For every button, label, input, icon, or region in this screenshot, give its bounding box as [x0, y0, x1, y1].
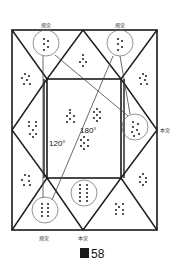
label-bottom-center: 本宮 — [78, 235, 88, 242]
circle-top-right — [107, 30, 133, 56]
palace-diagram: 飛宮 飛宮 本宮 飛宮 本宮 120° 180° 58 — [0, 0, 179, 262]
label-top-right: 飛宮 — [115, 22, 125, 29]
caption-number: 58 — [91, 247, 105, 261]
angle-120-label: 120° — [49, 139, 66, 148]
label-bottom-left: 飛宮 — [39, 235, 49, 242]
caption-glyph-box — [80, 248, 89, 258]
label-top-left: 飛宮 — [41, 22, 51, 29]
angle-180-label: 180° — [80, 126, 97, 135]
circle-bottom-center — [71, 180, 97, 206]
circle-bottom-left — [32, 197, 58, 223]
circle-top-left — [33, 30, 59, 56]
label-right: 本宮 — [160, 127, 170, 134]
circle-right — [122, 114, 148, 140]
